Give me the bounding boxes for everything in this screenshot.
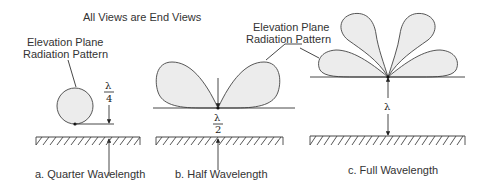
ground-plane <box>310 136 465 145</box>
diagram-title: All Views are End Views <box>83 11 202 23</box>
height-label-numerator: λ <box>105 80 112 91</box>
radiation-pattern-lobe-left <box>156 62 218 108</box>
panel-full-wavelength: Elevation Plane Radiation Pattern λ c. F… <box>246 13 465 176</box>
callout-label-line2: Radiation Pattern <box>246 33 331 45</box>
height-label: λ <box>384 101 391 112</box>
callout-label-line1: Elevation Plane <box>253 21 329 33</box>
panel-caption: a. Quarter Wavelength <box>35 168 145 180</box>
antenna-height-diagram: All Views are End Views Elevation Plane … <box>0 0 490 192</box>
callout-label-line1: Elevation Plane <box>27 36 103 48</box>
ground-plane <box>36 137 140 145</box>
radiation-pattern-lobe-right <box>218 62 280 108</box>
panel-half-wavelength: λ 2 b. Half Wavelength <box>153 44 302 180</box>
height-label-numerator: λ <box>214 112 221 123</box>
height-label-denominator: 2 <box>215 124 221 135</box>
callout-leader-line <box>266 44 285 60</box>
panel-caption: b. Half Wavelength <box>175 168 268 180</box>
panel-caption: c. Full Wavelength <box>348 164 438 176</box>
callout-label-line2: Radiation Pattern <box>23 48 108 60</box>
ground-plane <box>156 137 283 145</box>
panel-quarter-wavelength: Elevation Plane Radiation Pattern λ 4 a.… <box>23 36 145 180</box>
callout-leader-line <box>68 60 76 87</box>
height-label-denominator: 4 <box>106 93 112 104</box>
callout-leader-line <box>300 48 319 58</box>
radiation-pattern-lobe <box>57 88 93 124</box>
